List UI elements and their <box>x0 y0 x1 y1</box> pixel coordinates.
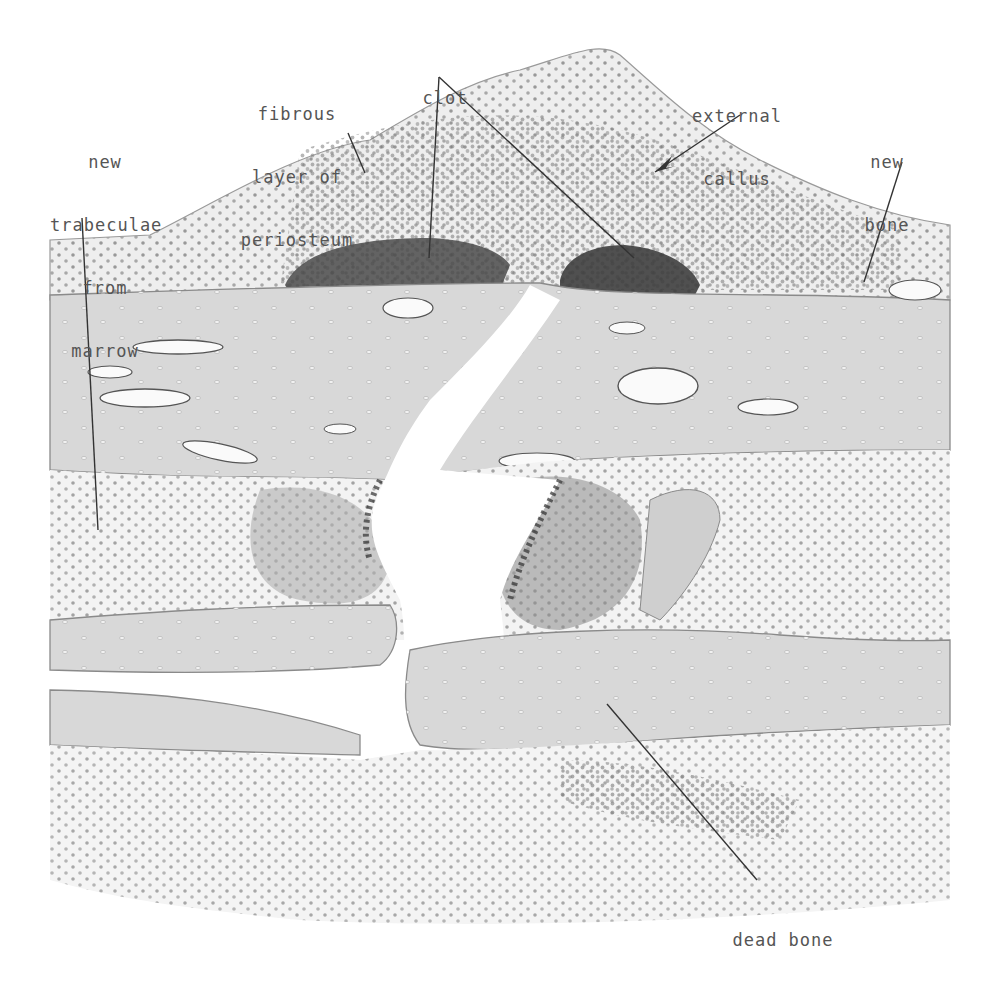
label-clot: clot <box>415 46 475 130</box>
label-line: layer of <box>232 167 362 188</box>
label-line: bone <box>852 215 922 236</box>
label-new-trabeculae: new trabeculae from marrow <box>50 110 160 383</box>
label-line: trabeculae <box>50 215 160 236</box>
label-line: external <box>672 106 802 127</box>
label-fibrous-layer: fibrous layer of periosteum <box>232 62 362 272</box>
label-external-callus: external callus <box>672 64 802 211</box>
label-line: fibrous <box>232 104 362 125</box>
label-line: periosteum <box>232 230 362 251</box>
label-line: dead bone <box>728 930 838 951</box>
label-line: new <box>50 152 160 173</box>
label-line: marrow <box>50 341 160 362</box>
label-new-bone: new bone <box>852 110 922 257</box>
label-line: new <box>852 152 922 173</box>
label-line: clot <box>415 88 475 109</box>
label-dead-bone: dead bone <box>728 888 838 972</box>
label-line: callus <box>672 169 802 190</box>
label-line: from <box>50 278 160 299</box>
